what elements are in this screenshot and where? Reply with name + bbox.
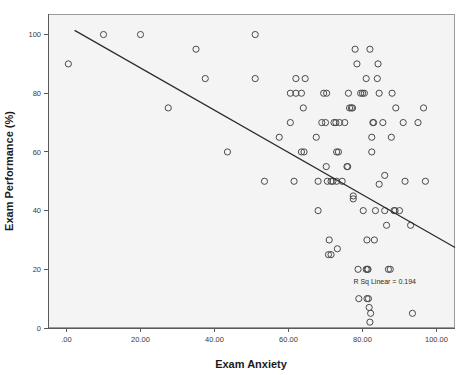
y-tick-label: 20 <box>33 265 41 274</box>
x-tick-label: .00 <box>61 335 71 344</box>
chart-annotations: R Sq Linear = 0.194 <box>353 278 416 286</box>
x-tick-label: 60.00 <box>279 335 298 344</box>
y-tick-label: 60 <box>33 148 41 157</box>
r-squared-label: R Sq Linear = 0.194 <box>353 278 416 286</box>
chart-canvas: 020406080100 .0020.0040.0060.0080.00100.… <box>0 0 473 375</box>
y-tick-label: 100 <box>28 30 41 39</box>
y-tick-label: 0 <box>37 324 41 333</box>
x-tick-label: 40.00 <box>205 335 224 344</box>
y-axis-ticks: 020406080100 <box>28 14 48 333</box>
x-tick-label: 100.00 <box>425 335 448 344</box>
x-tick-label: 20.00 <box>131 335 150 344</box>
scatter-plot-figure: 020406080100 .0020.0040.0060.0080.00100.… <box>0 0 473 375</box>
x-axis-ticks: .0020.0040.0060.0080.00100.00 <box>48 328 455 344</box>
y-tick-label: 40 <box>33 206 41 215</box>
y-tick-label: 80 <box>33 89 41 98</box>
x-tick-label: 80.00 <box>353 335 372 344</box>
y-axis-title: Exam Performance (%) <box>3 111 15 231</box>
x-axis-title: Exam Anxiety <box>215 358 288 370</box>
